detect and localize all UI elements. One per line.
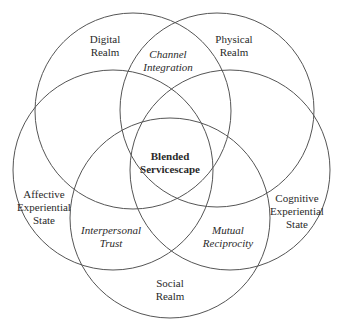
label-social-realm: Social Realm	[156, 277, 185, 303]
label-line: Mutual	[203, 224, 253, 237]
label-blended-servicescape: Blended Servicescape	[140, 150, 200, 176]
label-line: Realm	[156, 290, 185, 303]
label-line: State	[270, 218, 324, 231]
label-interpersonal-trust: Interpersonal Trust	[81, 224, 141, 250]
label-line: Interpersonal	[81, 224, 141, 237]
label-line: Realm	[215, 46, 252, 59]
label-line: Channel	[143, 48, 193, 61]
label-channel-integration: Channel Integration	[143, 48, 193, 74]
label-line: Physical	[215, 33, 252, 46]
label-cognitive-experiential-state: Cognitive Experiential State	[270, 192, 324, 231]
label-line: Experiential	[270, 205, 324, 218]
circle-digital-realm	[35, 13, 231, 209]
label-line: Trust	[81, 237, 141, 250]
label-line: Blended	[140, 150, 200, 163]
label-physical-realm: Physical Realm	[215, 33, 252, 59]
label-line: Affective	[17, 188, 71, 201]
label-mutual-reciprocity: Mutual Reciprocity	[203, 224, 253, 250]
label-line: State	[17, 214, 71, 227]
label-line: Cognitive	[270, 192, 324, 205]
label-line: Servicescape	[140, 163, 200, 176]
label-line: Realm	[90, 46, 121, 59]
label-line: Reciprocity	[203, 237, 253, 250]
label-line: Digital	[90, 33, 121, 46]
label-digital-realm: Digital Realm	[90, 33, 121, 59]
label-line: Integration	[143, 61, 193, 74]
label-line: Experiential	[17, 201, 71, 214]
label-line: Social	[156, 277, 185, 290]
label-affective-experiential-state: Affective Experiential State	[17, 188, 71, 227]
